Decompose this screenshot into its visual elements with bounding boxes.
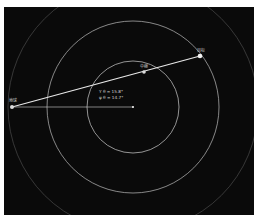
center-point: [132, 106, 134, 108]
node-label-right: 目标: [197, 49, 205, 53]
diagram-canvas: 地球 中继 目标 Y θ = 15.8° ψ θ = 14.7°: [4, 7, 254, 215]
angle-line-2: ψ θ = 14.7°: [99, 95, 123, 101]
node-left[interactable]: [10, 105, 14, 109]
node-right[interactable]: [198, 54, 203, 59]
node-middle[interactable]: [142, 70, 146, 74]
node-label-middle: 中继: [140, 65, 148, 69]
orbit-diagram: [4, 7, 254, 215]
outer-orbit-ring: [8, 7, 254, 215]
node-label-left: 地球: [9, 99, 17, 103]
angle-readout: Y θ = 15.8° ψ θ = 14.7°: [99, 89, 123, 101]
